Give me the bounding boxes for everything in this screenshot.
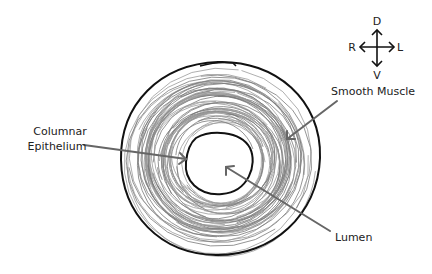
lumen-boundary xyxy=(186,133,253,194)
compass-ventral-label: V xyxy=(373,69,381,82)
compass-right-label: R xyxy=(348,41,356,54)
smooth-muscle-pointer xyxy=(287,101,337,139)
orientation-compass xyxy=(360,30,394,66)
columnar-label-line2: Epithelium xyxy=(28,140,87,153)
diagram-canvas: D V R L Columnar Epithelium Smooth Muscl… xyxy=(0,0,432,274)
columnar-label-line1: Columnar xyxy=(33,125,87,138)
compass-dorsal-label: D xyxy=(373,15,381,28)
lumen-label: Lumen xyxy=(335,231,372,244)
smooth-muscle-label: Smooth Muscle xyxy=(331,85,415,98)
compass-left-label: L xyxy=(397,41,404,54)
